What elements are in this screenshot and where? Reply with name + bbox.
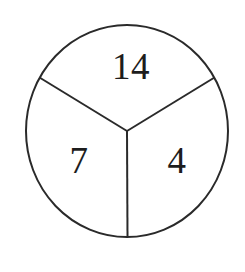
sector-label-lower-right: 4 xyxy=(168,140,187,181)
sector-diagram: 14 7 4 xyxy=(0,0,245,272)
figure-canvas: 14 7 4 xyxy=(0,0,245,272)
sector-label-lower-left: 7 xyxy=(70,140,89,181)
radius-down-line xyxy=(127,131,128,237)
sector-label-top: 14 xyxy=(112,46,150,87)
